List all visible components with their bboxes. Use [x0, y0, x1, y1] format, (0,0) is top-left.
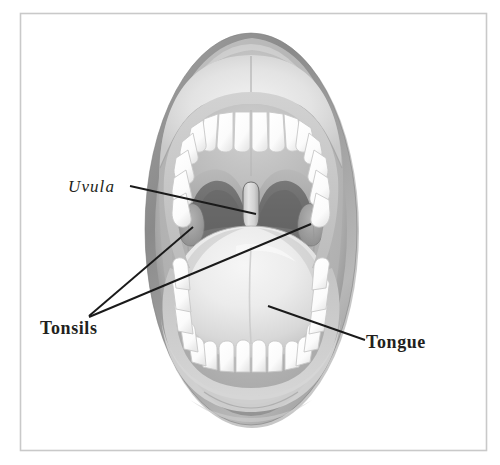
- tooth-lower-left-molar3: [173, 258, 190, 290]
- tooth-upper-lateral-right: [269, 112, 285, 152]
- tooth-upper-lateral-left: [217, 112, 233, 152]
- tooth-lower-lateral-left: [219, 341, 234, 372]
- label-uvula: Uvula: [68, 177, 115, 196]
- label-tongue: Tongue: [366, 332, 426, 352]
- figure-root: Uvula Tonsils Tongue: [0, 0, 500, 465]
- tooth-lower-lateral-right: [268, 341, 283, 372]
- tooth-upper-central-right: [252, 112, 268, 152]
- tooth-lower-right-molar3: [312, 258, 329, 290]
- tooth-upper-central-left: [234, 112, 250, 152]
- mouth-anatomy-illustration: Uvula Tonsils Tongue: [0, 0, 500, 465]
- tooth-lower-central-left: [236, 340, 250, 372]
- uvula: [243, 182, 259, 229]
- label-tonsils: Tonsils: [40, 318, 98, 338]
- tooth-lower-central-right: [252, 340, 266, 372]
